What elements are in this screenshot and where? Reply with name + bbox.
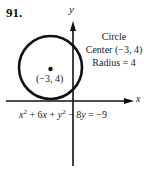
info-title: Circle — [84, 30, 144, 43]
center-point — [48, 67, 52, 71]
x-axis-label: x — [136, 93, 140, 104]
y-axis-arrow-icon — [70, 21, 76, 31]
y-axis-label: y — [69, 3, 74, 15]
circle-info: Circle Center (−3, 4) Radius = 4 — [84, 30, 144, 69]
eq-minus8: − 8 — [66, 109, 82, 120]
equation: x2 + 6x + y2 − 8y = −9 — [19, 109, 107, 120]
eq-plus6: + 6 — [27, 109, 43, 120]
info-center: Center (−3, 4) — [84, 43, 144, 56]
coordinate-graph — [0, 0, 144, 169]
eq-rhs: = −9 — [86, 109, 107, 120]
x-axis-arrow-icon — [124, 98, 134, 104]
eq-plus: + — [47, 109, 58, 120]
info-radius: Radius = 4 — [84, 56, 144, 69]
center-point-label: (−3, 4) — [36, 73, 63, 84]
